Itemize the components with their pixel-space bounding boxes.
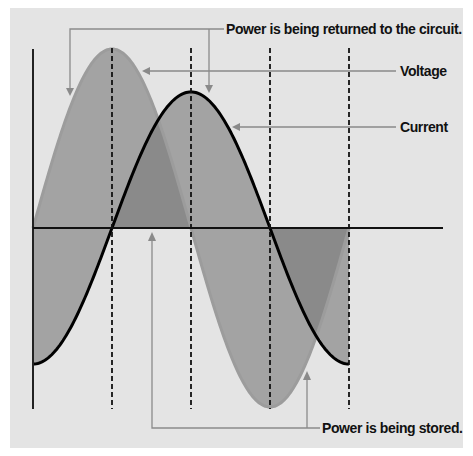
arrow-left-icon	[142, 67, 150, 75]
arrow-down-icon	[66, 88, 74, 96]
arrow-up-icon	[303, 371, 311, 380]
arrow-up-icon	[148, 232, 156, 241]
returned-label: Power is being returned to the circuit.	[226, 21, 462, 37]
phase-diagram: Power is being returned to the circuit. …	[0, 0, 473, 456]
voltage-label: Voltage	[400, 63, 447, 79]
stored-label: Power is being stored.	[322, 420, 463, 436]
arrow-down-icon	[205, 85, 213, 93]
arrow-left-icon	[232, 123, 240, 131]
current-label: Current	[400, 119, 448, 135]
